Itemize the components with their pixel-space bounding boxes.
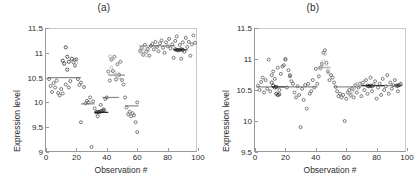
data-point xyxy=(328,79,331,82)
panel-a-x-tick-label: 60 xyxy=(133,153,142,162)
data-point xyxy=(333,81,336,84)
panel-b-x-tick-label: 100 xyxy=(400,153,413,162)
data-point xyxy=(358,82,361,85)
y-tick-mark xyxy=(46,53,49,54)
data-point xyxy=(99,103,102,106)
x-tick-mark xyxy=(377,148,378,151)
data-point xyxy=(184,36,187,39)
data-point xyxy=(107,70,110,73)
data-point xyxy=(175,35,178,38)
data-point xyxy=(159,42,162,45)
figure-scatter-pair: (a) Expression level Observation # 99.51… xyxy=(0,0,417,183)
data-point xyxy=(299,126,302,129)
data-point xyxy=(168,37,171,40)
data-point xyxy=(317,75,320,78)
data-point xyxy=(55,79,58,82)
data-point xyxy=(389,81,392,84)
data-point xyxy=(193,41,196,44)
data-point xyxy=(152,48,155,51)
data-point xyxy=(378,82,381,85)
panel-b-data-layer xyxy=(255,28,407,152)
panel-a-y-tick-label: 9 xyxy=(39,148,43,157)
panel-a-x-tick-label: 20 xyxy=(72,153,81,162)
data-point xyxy=(190,43,193,46)
data-point xyxy=(145,54,148,57)
data-point xyxy=(114,78,117,81)
panel-b-plot-area: 9.51010.51111.5020406080100 xyxy=(254,28,406,152)
x-tick-mark xyxy=(285,148,286,151)
data-point xyxy=(172,56,175,59)
data-point xyxy=(110,66,113,69)
data-point xyxy=(186,45,189,48)
data-point xyxy=(272,70,275,73)
data-point xyxy=(108,55,111,58)
data-point xyxy=(266,87,269,90)
data-point xyxy=(298,93,301,96)
x-tick-mark xyxy=(137,148,138,151)
data-point xyxy=(260,80,263,83)
data-point xyxy=(331,76,334,79)
data-point xyxy=(381,77,384,80)
panel-a-title: (a) xyxy=(0,2,208,13)
data-point xyxy=(301,87,304,90)
panel-a-y-tick-label: 10 xyxy=(34,98,43,107)
panel-b-y-tick-label: 11.5 xyxy=(237,24,252,33)
data-point xyxy=(122,83,125,86)
data-point xyxy=(124,96,127,99)
x-tick-mark xyxy=(76,148,77,151)
data-point xyxy=(371,90,374,93)
x-tick-mark xyxy=(255,148,256,151)
data-point xyxy=(311,79,314,82)
data-point xyxy=(273,77,276,80)
data-point xyxy=(261,76,264,79)
data-point xyxy=(363,89,366,92)
data-point xyxy=(336,90,339,93)
data-point xyxy=(128,110,131,113)
data-point xyxy=(383,89,386,92)
data-point xyxy=(60,88,63,91)
data-point xyxy=(375,97,378,100)
data-point xyxy=(92,100,95,103)
data-point xyxy=(163,51,166,54)
data-point xyxy=(178,43,181,46)
data-point xyxy=(380,93,383,96)
y-tick-mark xyxy=(255,90,258,91)
panel-b-x-tick-label: 40 xyxy=(311,153,320,162)
x-tick-mark xyxy=(316,148,317,151)
panel-b-y-axis-label: Expression level xyxy=(221,90,231,152)
panel-a-y-tick-label: 9.5 xyxy=(32,123,43,132)
panel-b-x-tick-label: 80 xyxy=(372,153,381,162)
data-point xyxy=(181,41,184,44)
data-point xyxy=(386,74,389,77)
panel-b-y-tick-label: 9.5 xyxy=(241,148,252,157)
data-point xyxy=(355,91,358,94)
panel-b-y-tick-label: 11 xyxy=(244,55,252,64)
x-tick-mark xyxy=(168,148,169,151)
data-point xyxy=(267,58,270,61)
panel-b-y-tick-label: 10.5 xyxy=(236,86,252,95)
data-point xyxy=(352,96,355,99)
y-tick-mark xyxy=(46,102,49,103)
y-tick-mark xyxy=(46,78,49,79)
x-tick-mark xyxy=(407,148,408,151)
panel-b-x-tick-label: 60 xyxy=(342,153,351,162)
data-point xyxy=(270,74,273,77)
data-point xyxy=(49,85,52,88)
panel-a-x-axis-label: Observation # xyxy=(45,165,197,175)
data-point xyxy=(93,107,96,110)
panel-a-y-tick-label: 11 xyxy=(35,48,43,57)
data-point xyxy=(134,121,137,124)
data-point xyxy=(302,98,305,101)
data-point xyxy=(63,62,66,65)
data-point xyxy=(339,92,342,95)
data-point xyxy=(143,46,146,49)
data-point xyxy=(83,86,86,89)
data-point xyxy=(154,40,157,43)
data-point xyxy=(66,68,69,71)
data-point xyxy=(348,89,351,92)
data-point xyxy=(258,89,261,92)
data-point xyxy=(61,92,64,95)
data-point xyxy=(325,61,328,64)
data-point xyxy=(360,95,363,98)
data-point xyxy=(119,60,122,63)
